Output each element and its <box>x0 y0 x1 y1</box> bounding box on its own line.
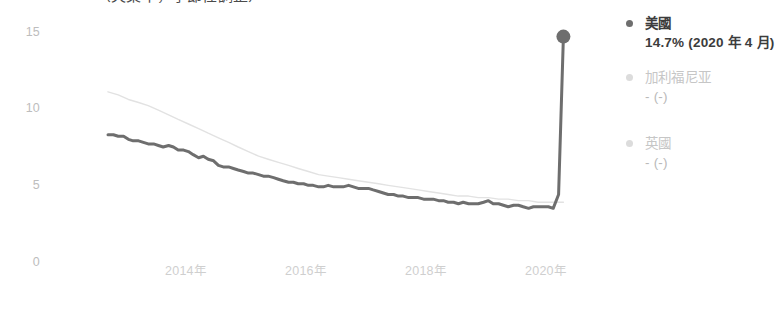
y-axis-tick-label: 0 <box>0 256 40 269</box>
legend-item-2[interactable]: 英國 - (-) <box>622 134 781 172</box>
legend-item-value: - (-) <box>645 153 781 172</box>
chart-line-series <box>108 37 563 209</box>
x-axis-tick-label: 2014年 <box>136 264 236 278</box>
y-axis-tick-label: 15 <box>0 26 40 39</box>
legend-item-name: 英國 <box>645 134 781 153</box>
legend-item-name: 加利福尼亚 <box>645 68 781 87</box>
x-axis-tick-label: 2018年 <box>376 264 476 278</box>
legend-item-name: 美國 <box>645 14 781 33</box>
data-point-marker[interactable] <box>556 30 570 44</box>
x-axis-tick-label: 2020年 <box>496 264 596 278</box>
chart-page: （失業率，季節性調整） 051015 2014年2016年2018年2020年 … <box>0 0 781 311</box>
legend-item-0[interactable]: 美國 14.7% (2020 年 4 月) <box>622 14 781 52</box>
legend-item-value: 14.7% (2020 年 4 月) <box>645 33 781 52</box>
y-axis-tick-label: 10 <box>0 102 40 115</box>
legend-item-1[interactable]: 加利福尼亚 - (-) <box>622 68 781 106</box>
bullet-icon <box>626 74 633 81</box>
x-axis-tick-label: 2016年 <box>256 264 356 278</box>
y-axis-tick-label: 5 <box>0 179 40 192</box>
chart-legend: 美國 14.7% (2020 年 4 月) 加利福尼亚 - (-) 英國 - (… <box>622 14 781 188</box>
legend-item-value: - (-) <box>645 87 781 106</box>
bullet-icon <box>626 140 633 147</box>
bullet-icon <box>626 20 633 27</box>
